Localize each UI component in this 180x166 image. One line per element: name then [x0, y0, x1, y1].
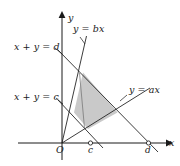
line-label-y-equals-bx: y = bx	[73, 24, 104, 34]
y-axis-arrowhead	[59, 11, 66, 18]
tick-label-d: d	[145, 146, 151, 155]
line-y-equals-ax	[62, 88, 150, 143]
line-label-x-plus-y-equals-d: x + y = d	[14, 42, 60, 52]
x-axis-label: x	[169, 138, 174, 148]
math-figure: y x O c d y = bx y = ax x + y = d x + y …	[0, 0, 180, 166]
line-label-y-equals-ax: y = ax	[129, 85, 160, 95]
line-x-plus-y-equals-d	[58, 50, 158, 152]
origin-label: O	[56, 145, 64, 155]
y-axis-label: y	[68, 13, 73, 23]
leader-line-y-ax	[120, 95, 127, 101]
leader-line-y-bx	[80, 37, 85, 44]
tick-label-c: c	[88, 146, 93, 155]
line-label-x-plus-y-equals-c: x + y = c	[14, 92, 59, 102]
